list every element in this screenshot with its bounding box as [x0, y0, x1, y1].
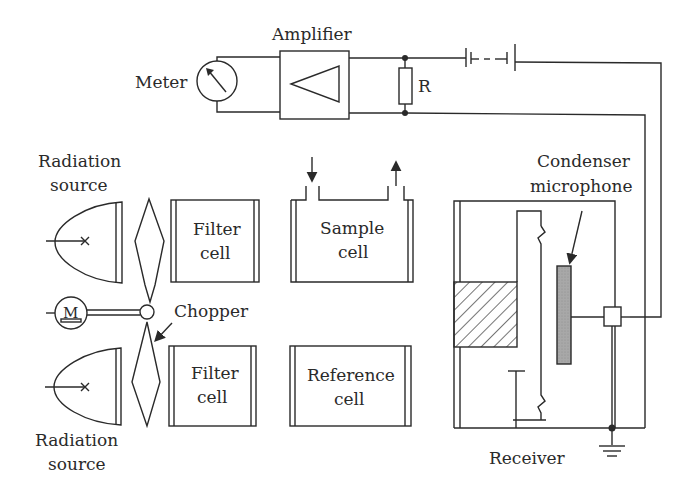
microphone-diaphragm	[557, 266, 571, 364]
receiver-window-hatched	[454, 282, 517, 347]
battery	[466, 44, 515, 71]
amplifier	[280, 51, 349, 119]
filter-cell-top	[171, 200, 259, 282]
filter-cell-bottom-label-1: Filter	[191, 363, 240, 383]
chopper-pointer-arrow	[156, 323, 172, 340]
wire	[217, 101, 280, 112]
reference-cell-label-1: Reference	[307, 365, 395, 385]
microphone-pointer-arrow	[570, 211, 582, 262]
meter	[197, 61, 237, 101]
amplifier-triangle-icon	[291, 66, 339, 102]
filter-cell-top-label-1: Filter	[193, 219, 242, 239]
ground	[599, 425, 625, 457]
sample-cell-label-2: cell	[338, 242, 368, 262]
condenser-microphone-label-2: microphone	[530, 176, 633, 196]
amplifier-circuit	[197, 44, 661, 428]
diagram-canvas: Amplifier Meter R Radiation source Radia…	[0, 0, 696, 494]
radiation-source-top-label-1: Radiation	[38, 151, 121, 171]
condenser-microphone-label-1: Condenser	[537, 151, 631, 171]
amplifier-label: Amplifier	[271, 24, 353, 44]
receiver-label: Receiver	[489, 448, 566, 468]
radiation-source-top	[46, 202, 122, 283]
radiation-source-top-label-2: source	[50, 175, 108, 195]
condenser-microphone	[557, 211, 630, 428]
filter-cell-bottom-label-2: cell	[197, 387, 227, 407]
resistor	[399, 55, 412, 116]
reference-cell	[290, 346, 411, 426]
reference-cell-label-2: cell	[334, 389, 364, 409]
wire	[217, 57, 280, 61]
chopper-label: Chopper	[174, 301, 249, 321]
filter-cell-bottom	[169, 346, 256, 426]
sample-cell-label-1: Sample	[320, 218, 384, 238]
motor: M	[46, 297, 140, 329]
resistor-label: R	[418, 76, 432, 96]
microphone-junction	[604, 307, 621, 326]
radiation-source-bottom	[45, 348, 121, 425]
filter-cell-top-label-2: cell	[200, 243, 230, 263]
radiation-source-bottom-label-2: source	[48, 454, 106, 474]
meter-label: Meter	[135, 72, 188, 92]
chopper	[132, 199, 164, 426]
radiation-source-bottom-label-1: Radiation	[35, 430, 118, 450]
chopper-hub-icon	[140, 305, 154, 319]
